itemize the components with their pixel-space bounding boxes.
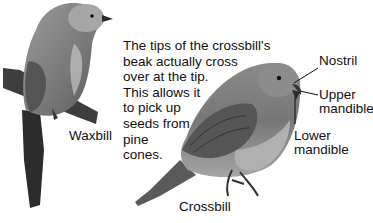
lower-mandible-label-line2: mandible [294, 142, 349, 157]
upper-mandible-label-line1: Upper [319, 87, 356, 102]
description-line: The tips of the crossbill's [123, 38, 270, 54]
description-line: over at the tip. [123, 69, 270, 85]
description-line: pine [123, 132, 270, 148]
waxbill-label: Waxbill [69, 128, 112, 143]
lower-mandible-label-line1: Lower [294, 128, 331, 143]
description-line: to pick up [123, 100, 270, 116]
description-line: seeds from [123, 116, 270, 132]
description-line: cones. [123, 147, 270, 163]
nostril-label: Nostril [319, 53, 357, 68]
waxbill-bird [22, 3, 113, 208]
description-line: This allows it [123, 85, 270, 101]
upper-mandible-leader-line [300, 91, 318, 95]
upper-mandible-label-line2: mandible [319, 101, 373, 116]
description-line: beak actually cross [123, 54, 270, 70]
crossbill-description: The tips of the crossbill's beak actuall… [123, 38, 270, 163]
crossbill-label: Crossbill [179, 199, 231, 214]
bird-beak-diagram: The tips of the crossbill's beak actuall… [0, 0, 373, 223]
